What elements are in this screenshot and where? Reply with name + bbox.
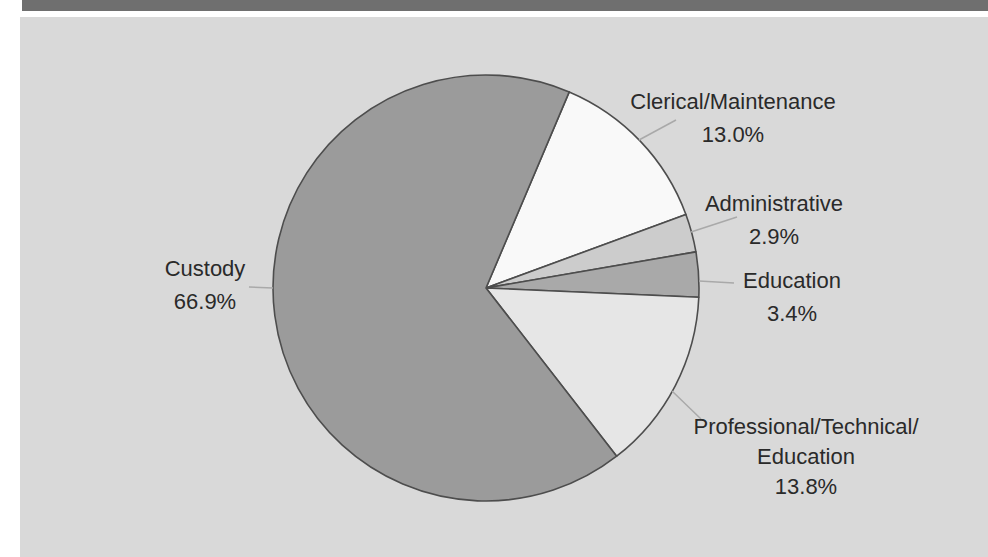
pie-label-percent: 2.9% xyxy=(705,220,843,253)
pie-label-percent: 13.8% xyxy=(693,472,918,502)
pie-label-text: Education xyxy=(743,264,841,297)
pie-label-text: Education xyxy=(693,442,918,472)
scanned-page: Clerical/Maintenance 13.0% Administrativ… xyxy=(0,0,988,557)
pie-label-education: Education 3.4% xyxy=(743,264,841,330)
pie-label-percent: 13.0% xyxy=(630,118,835,151)
pie-label-percent: 3.4% xyxy=(743,297,841,330)
pie-label-professional-technical-education: Professional/Technical/ Education 13.8% xyxy=(693,412,918,502)
pie-label-text: Professional/Technical/ xyxy=(693,412,918,442)
pie-label-administrative: Administrative 2.9% xyxy=(705,187,843,253)
leader-line-4 xyxy=(249,287,273,288)
pie-label-text: Administrative xyxy=(705,187,843,220)
pie-label-custody: Custody 66.9% xyxy=(165,252,246,318)
pie-label-percent: 66.9% xyxy=(165,285,246,318)
pie-label-clerical-maintenance: Clerical/Maintenance 13.0% xyxy=(630,85,835,151)
pie-label-text: Clerical/Maintenance xyxy=(630,85,835,118)
pie-label-text: Custody xyxy=(165,252,246,285)
leader-line-2 xyxy=(699,281,734,283)
